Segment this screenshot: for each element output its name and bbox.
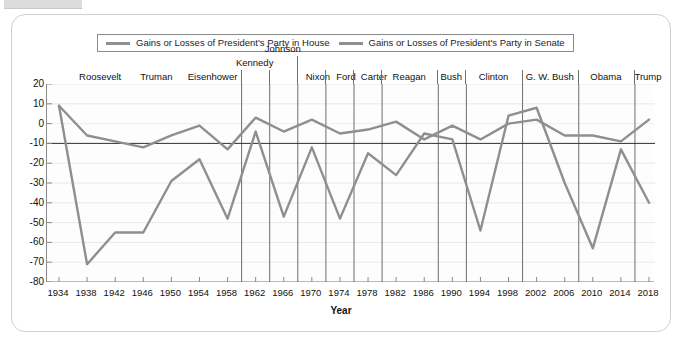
president-label-truman: Truman (140, 72, 172, 82)
y-tick-label: -30 (18, 178, 44, 188)
president-divider-stem-tall (269, 70, 270, 84)
plot-area (46, 84, 654, 282)
president-divider-stem-tall (297, 56, 298, 84)
president-label-g-w-bush: G. W. Bush (526, 72, 574, 82)
president-label-reagan: Reagan (393, 72, 426, 82)
y-tick-label: -70 (18, 257, 44, 267)
president-divider-stem (465, 70, 466, 84)
y-tick-label: 20 (18, 79, 44, 89)
y-tick-label: -20 (18, 158, 44, 168)
x-tick-label: 1990 (441, 288, 462, 298)
president-label-layer: RooseveltTrumanEisenhowerKennedyJohnsonN… (0, 44, 682, 84)
y-tick-label: -40 (18, 198, 44, 208)
president-divider-stem (381, 70, 382, 84)
top-tab-decoration (4, 0, 82, 9)
x-tick-label: 2018 (637, 288, 658, 298)
president-label-carter: Carter (361, 72, 387, 82)
president-divider-stem-tall (241, 70, 242, 84)
x-tick-label: 2002 (525, 288, 546, 298)
x-axis-labels: 1934193819421946195019541958196219661970… (46, 288, 654, 302)
president-divider-stem (522, 70, 523, 84)
x-tick-label: 2010 (581, 288, 602, 298)
president-divider-stem (437, 70, 438, 84)
y-tick-label: 10 (18, 99, 44, 109)
president-divider-stem (325, 70, 326, 84)
x-tick-label: 1986 (413, 288, 434, 298)
x-tick-label: 1974 (328, 288, 349, 298)
president-label-johnson: Johnson (265, 44, 301, 54)
president-label-eisenhower: Eisenhower (188, 72, 238, 82)
president-divider-stem (578, 70, 579, 84)
x-tick-label: 1998 (497, 288, 518, 298)
x-tick-label: 1994 (469, 288, 490, 298)
x-axis-title: Year (0, 305, 682, 316)
president-label-obama: Obama (590, 72, 621, 82)
y-tick-label: -80 (18, 277, 44, 287)
president-label-clinton: Clinton (479, 72, 509, 82)
x-tick-label: 1958 (216, 288, 237, 298)
y-tick-label: -10 (18, 138, 44, 148)
x-tick-label: 1950 (160, 288, 181, 298)
x-tick-label: 2014 (609, 288, 630, 298)
x-tick-label: 1938 (76, 288, 97, 298)
x-tick-label: 1942 (104, 288, 125, 298)
plot-svg (47, 84, 655, 282)
y-tick-label: 0 (18, 119, 44, 129)
x-tick-label: 2006 (553, 288, 574, 298)
president-divider-stem (634, 70, 635, 84)
president-label-trump: Trump (634, 72, 661, 82)
y-tick-label: -60 (18, 237, 44, 247)
president-label-bush: Bush (441, 72, 463, 82)
x-tick-label: 1970 (300, 288, 321, 298)
y-axis-labels: 20100-10-20-30-40-50-60-70-80 (14, 84, 44, 282)
president-label-nixon: Nixon (306, 72, 330, 82)
x-tick-label: 1934 (47, 288, 68, 298)
president-label-roosevelt: Roosevelt (79, 72, 121, 82)
x-tick-label: 1966 (272, 288, 293, 298)
x-tick-label: 1962 (244, 288, 265, 298)
y-tick-label: -50 (18, 218, 44, 228)
x-tick-label: 1982 (385, 288, 406, 298)
president-divider-stem (353, 70, 354, 84)
x-tick-label: 1978 (356, 288, 377, 298)
x-tick-label: 1954 (188, 288, 209, 298)
x-tick-label: 1946 (132, 288, 153, 298)
chart-page: Gains or Losses of President's Party in … (0, 0, 682, 340)
president-label-kennedy: Kennedy (236, 58, 274, 68)
